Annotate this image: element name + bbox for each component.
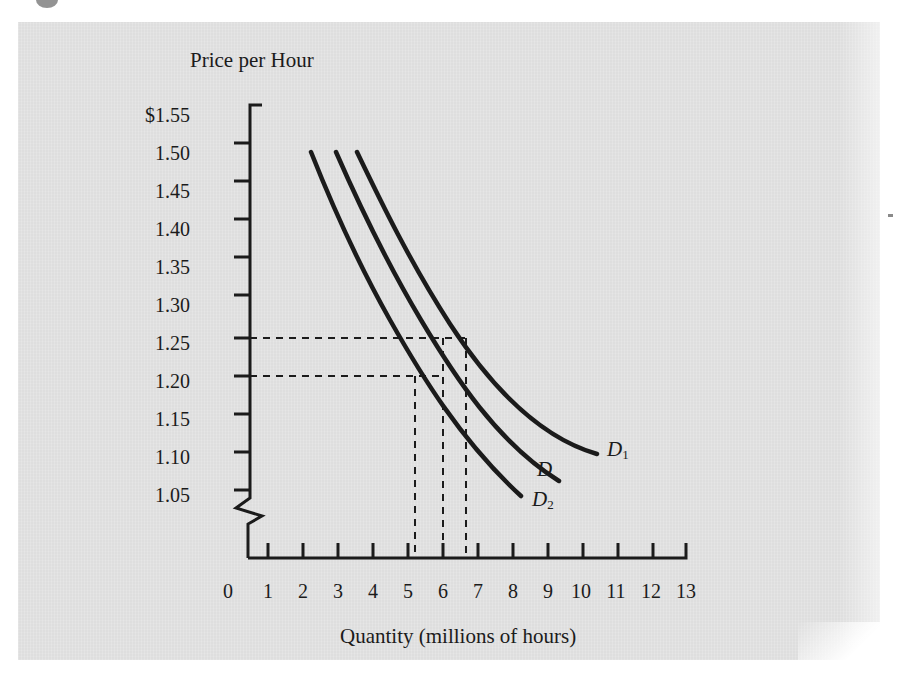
- y-tick-marks: [234, 143, 250, 490]
- chart-stage: Price per Hour Quantity (millions of hou…: [0, 0, 908, 682]
- chart-svg: [0, 0, 908, 682]
- curve-d1: [357, 152, 597, 454]
- guide-lines: [250, 338, 466, 558]
- x-tick-marks: [268, 543, 653, 558]
